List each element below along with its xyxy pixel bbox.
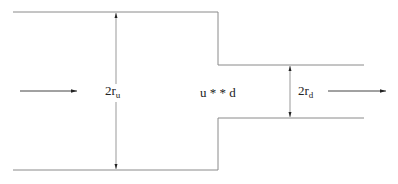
- downstream-diameter-label: 2rd: [298, 84, 313, 102]
- upstream-diameter-label: 2ru: [104, 84, 121, 102]
- junction-label: u * * d: [200, 86, 236, 100]
- label-base: 2r: [105, 83, 116, 98]
- label-subscript: d: [309, 90, 314, 100]
- pipe-diagram: [0, 0, 398, 184]
- label-base: 2r: [298, 83, 309, 98]
- label-subscript: u: [116, 90, 121, 100]
